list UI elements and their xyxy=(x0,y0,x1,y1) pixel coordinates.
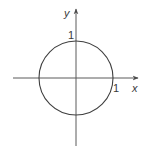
x-intercept-label: 1 xyxy=(113,82,119,94)
y-axis-label: y xyxy=(63,7,71,19)
x-axis-label: x xyxy=(131,82,138,94)
unit-circle-diagram: y 1 1 x xyxy=(0,0,148,156)
y-intercept-label: 1 xyxy=(68,29,74,41)
